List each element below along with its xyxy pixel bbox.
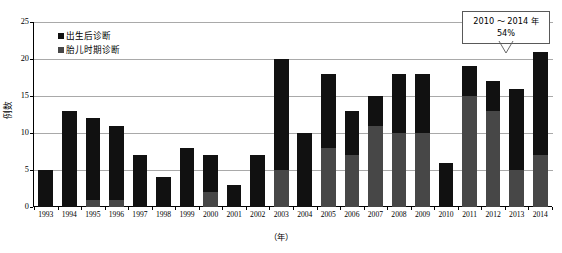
x-axis-tick-label: 2011: [462, 210, 477, 219]
bar-segment-postnatal: [439, 163, 454, 207]
legend: 出生后诊断 胎儿时期诊断: [58, 29, 120, 57]
bar-1999: [180, 22, 195, 207]
bar-segment-fetal: [274, 170, 289, 207]
y-axis-tick-label: 5: [25, 166, 29, 174]
bar-2005: [321, 22, 336, 207]
legend-label-fetal: 胎儿时期诊断: [66, 43, 120, 57]
x-axis-tick-label: 2004: [297, 210, 312, 219]
legend-swatch-fetal-icon: [58, 47, 64, 53]
bar-segment-fetal: [368, 126, 383, 207]
bar-segment-postnatal: [392, 74, 407, 133]
bar-2003: [274, 22, 289, 207]
y-axis-tick-label: 25: [21, 18, 29, 26]
bar-segment-fetal: [462, 96, 477, 207]
x-axis-tick-mark: [411, 207, 412, 210]
x-axis-tick-mark: [505, 207, 506, 210]
bar-2011: [462, 22, 477, 207]
bar-segment-fetal: [86, 200, 101, 207]
bar-2014: [533, 22, 548, 207]
bar-2010: [439, 22, 454, 207]
x-axis-tick-label: 2002: [250, 210, 265, 219]
x-axis-tick-label: 1995: [85, 210, 100, 219]
bar-segment-fetal: [321, 148, 336, 207]
x-axis-tick-label: 1993: [38, 210, 53, 219]
bar-segment-postnatal: [133, 155, 148, 207]
x-axis-tick-label: 1998: [156, 210, 171, 219]
x-axis-tick-mark: [387, 207, 388, 210]
bar-segment-postnatal: [368, 96, 383, 126]
y-axis-tick-label: 20: [21, 55, 29, 63]
x-axis-tick-mark: [317, 207, 318, 210]
x-axis-tick-mark: [175, 207, 176, 210]
bar-2009: [415, 22, 430, 207]
x-axis-tick-mark: [528, 207, 529, 210]
bar-segment-postnatal: [486, 81, 501, 111]
bar-2008: [392, 22, 407, 207]
bar-segment-fetal: [392, 133, 407, 207]
bar-2004: [297, 22, 312, 207]
x-axis-tick-label: 2013: [509, 210, 524, 219]
bar-segment-postnatal: [415, 74, 430, 133]
x-axis-tick-label: 2012: [486, 210, 501, 219]
bar-segment-postnatal: [227, 185, 242, 207]
bar-segment-postnatal: [250, 155, 265, 207]
x-axis-tick-mark: [222, 207, 223, 210]
bar-segment-postnatal: [38, 170, 53, 207]
annotation-percent: 54%: [465, 27, 547, 39]
x-axis-tick-label: 1997: [132, 210, 147, 219]
x-axis-tick-label: 2014: [533, 210, 548, 219]
x-axis-tick-mark: [481, 207, 482, 210]
x-axis-tick-mark: [105, 207, 106, 210]
x-axis-tick-label: 2007: [368, 210, 383, 219]
y-axis-tick-label: 10: [21, 129, 29, 137]
bar-segment-postnatal: [321, 74, 336, 148]
bar-segment-fetal: [486, 111, 501, 207]
stacked-bar-chart: 0510152025 例数 19931994199519961997199819…: [0, 0, 562, 253]
bar-1993: [38, 22, 53, 207]
x-axis-tick-mark: [152, 207, 153, 210]
bar-segment-fetal: [509, 170, 524, 207]
bar-1998: [156, 22, 171, 207]
bar-segment-fetal: [203, 192, 218, 207]
bar-segment-postnatal: [86, 118, 101, 199]
y-axis-tick-mark: [30, 207, 33, 208]
bar-segment-postnatal: [509, 89, 524, 170]
bar-segment-fetal: [415, 133, 430, 207]
x-axis-tick-mark: [199, 207, 200, 210]
bar-1997: [133, 22, 148, 207]
bar-segment-postnatal: [345, 111, 360, 155]
x-axis-tick-label: 1996: [109, 210, 124, 219]
bar-segment-postnatal: [297, 133, 312, 207]
x-axis-tick-mark: [434, 207, 435, 210]
y-axis-label: 例数: [1, 80, 13, 140]
x-axis-tick-label: 2003: [274, 210, 289, 219]
bar-segment-postnatal: [274, 59, 289, 170]
annotation-callout: 2010 ～ 2014 年 54%: [462, 11, 550, 44]
bar-segment-fetal: [533, 155, 548, 207]
y-axis-tick-label: 15: [21, 92, 29, 100]
x-axis-label: （年）: [0, 230, 562, 242]
annotation-period: 2010 ～ 2014 年: [465, 15, 547, 27]
x-axis-tick-label: 2008: [391, 210, 406, 219]
bar-segment-postnatal: [109, 126, 124, 200]
bar-segment-postnatal: [462, 66, 477, 96]
legend-swatch-postnatal-icon: [58, 33, 64, 39]
bar-segment-postnatal: [533, 52, 548, 156]
x-axis-tick-mark: [340, 207, 341, 210]
bar-segment-fetal: [109, 200, 124, 207]
legend-label-postnatal: 出生后诊断: [66, 29, 111, 43]
bar-2000: [203, 22, 218, 207]
x-axis-tick-label: 1999: [179, 210, 194, 219]
x-axis-tick-mark: [364, 207, 365, 210]
x-axis-tick-mark: [458, 207, 459, 210]
x-axis-tick-mark: [81, 207, 82, 210]
bar-2001: [227, 22, 242, 207]
bar-2006: [345, 22, 360, 207]
annotation-pointer-icon: [498, 41, 514, 54]
x-axis-tick-mark: [246, 207, 247, 210]
x-axis-tick-label: 2010: [438, 210, 453, 219]
x-axis-tick-label: 2000: [203, 210, 218, 219]
y-axis-tick-label: 0: [25, 203, 29, 211]
bar-segment-postnatal: [203, 155, 218, 192]
bar-segment-fetal: [345, 155, 360, 207]
